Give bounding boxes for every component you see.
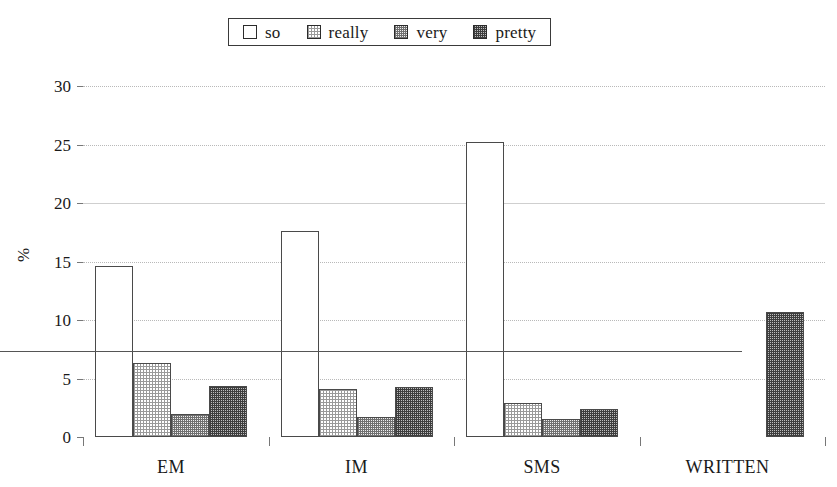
bar-im-so [281, 231, 319, 437]
bar-em-pretty [209, 386, 247, 437]
legend-label-very: very [416, 24, 447, 41]
plot-area: EMIMSMSWRITTEN [83, 86, 825, 437]
legend-label-really: really [329, 24, 369, 41]
legend-entry-so: so [243, 24, 281, 41]
bar-sms-pretty [580, 409, 618, 437]
x-category-label-em: EM [157, 458, 185, 476]
legend-label-so: so [265, 24, 281, 41]
bar-sms-so [466, 142, 504, 437]
y-tick-label-5: 5 [63, 370, 72, 387]
y-tick-label-20: 20 [54, 195, 71, 212]
bar-group-written [640, 86, 826, 437]
y-tick-label-30: 30 [54, 78, 71, 95]
bar-im-very [357, 417, 395, 437]
bar-sms-very [542, 419, 580, 437]
bar-group-em [83, 86, 269, 437]
bar-sms-really [504, 403, 542, 437]
legend-entry-very: very [394, 24, 447, 41]
y-tick-label-10: 10 [54, 312, 71, 329]
y-tick-label-15: 15 [54, 253, 71, 270]
bar-im-pretty [395, 387, 433, 437]
legend-swatch-so-icon [243, 25, 257, 39]
y-axis: 051015202530 [0, 0, 83, 487]
legend-entry-pretty: pretty [473, 24, 536, 41]
y-tick-label-0: 0 [63, 429, 72, 446]
bar-written-pretty [766, 312, 804, 437]
x-tick-mark-3 [825, 437, 826, 446]
x-tick-mark-0 [269, 437, 270, 446]
legend-entry-really: really [307, 24, 369, 41]
legend-swatch-really-icon [307, 25, 321, 39]
legend-label-pretty: pretty [495, 24, 536, 41]
bar-group-sms [454, 86, 640, 437]
bar-im-really [319, 389, 357, 437]
x-category-label-im: IM [345, 458, 368, 476]
x-axis-line [0, 351, 742, 352]
x-tick-mark-2 [640, 437, 641, 446]
legend-swatch-very-icon [394, 25, 408, 39]
x-category-label-written: WRITTEN [686, 458, 770, 476]
chart-legend: so really very pretty [228, 18, 551, 46]
bar-em-very [171, 414, 209, 437]
x-tick-mark-origin [83, 437, 84, 446]
y-axis-title: % [14, 248, 34, 262]
y-tick-label-25: 25 [54, 136, 71, 153]
legend-swatch-pretty-icon [473, 25, 487, 39]
x-category-label-sms: SMS [523, 458, 560, 476]
bar-group-im [269, 86, 455, 437]
x-tick-mark-1 [454, 437, 455, 446]
bar-em-really [133, 363, 171, 437]
